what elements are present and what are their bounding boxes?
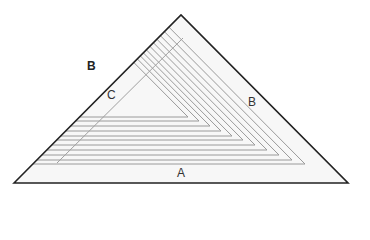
label-base-side: A [177,167,185,179]
label-right-side: B [248,96,256,108]
label-outer-left-side: B [87,60,96,72]
label-inner-side-c: C [107,89,116,101]
